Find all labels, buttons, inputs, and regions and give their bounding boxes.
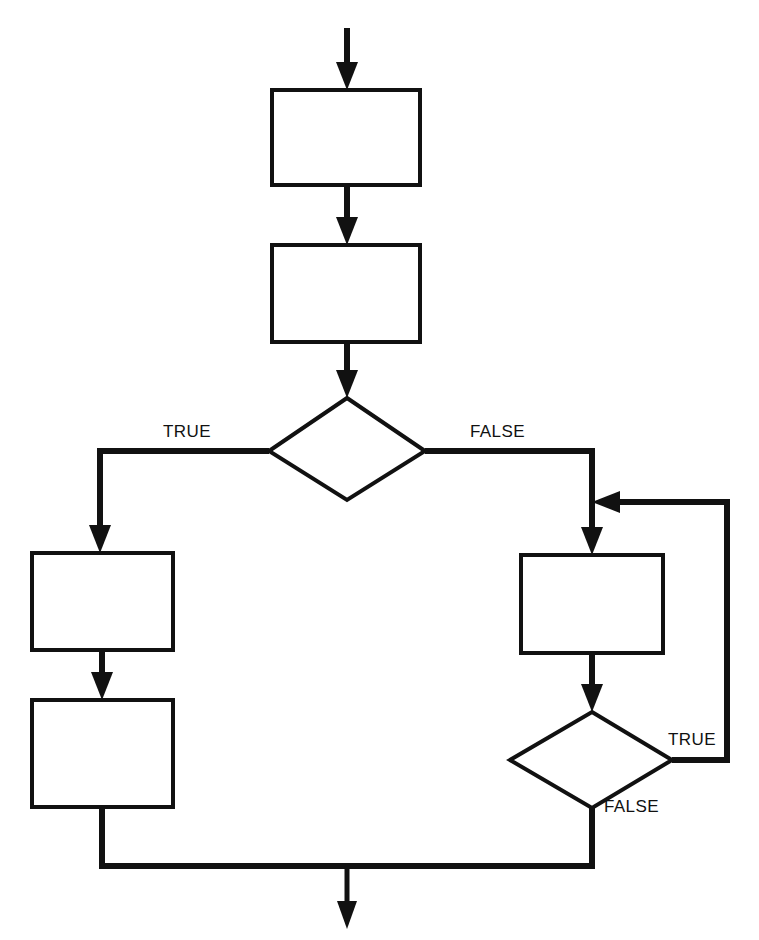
node-decision-1[interactable] <box>269 398 425 500</box>
node-process-4[interactable] <box>32 700 173 807</box>
edge-process1-to-process2 <box>336 185 358 245</box>
flowchart-svg: TRUE FALSE TRUE FALSE <box>0 0 759 940</box>
node-process-3[interactable] <box>32 553 173 650</box>
node-process-5[interactable] <box>521 555 663 653</box>
edge-decision1-true-branch <box>89 451 269 553</box>
decision2-true-label: TRUE <box>668 730 716 749</box>
edge-process5-to-decision2 <box>581 653 603 712</box>
edge-decision1-false-branch <box>425 451 603 555</box>
edge-process4-to-merge <box>102 807 347 866</box>
edge-entry-to-process1 <box>336 28 358 90</box>
decision1-true-label: TRUE <box>163 422 211 441</box>
edge-process3-to-process4 <box>91 650 113 700</box>
edge-process2-to-decision1 <box>336 342 358 398</box>
scan-artifact-text <box>0 0 759 7</box>
decision2-false-label: FALSE <box>604 797 659 816</box>
edge-merge-to-exit <box>337 866 357 929</box>
node-decision-2[interactable] <box>510 712 672 808</box>
node-process-1[interactable] <box>272 90 420 185</box>
decision1-false-label: FALSE <box>470 422 525 441</box>
edge-decision2-false-exit <box>347 808 592 866</box>
flowchart-canvas: TRUE FALSE TRUE FALSE <box>0 0 759 940</box>
node-process-2[interactable] <box>272 245 420 342</box>
